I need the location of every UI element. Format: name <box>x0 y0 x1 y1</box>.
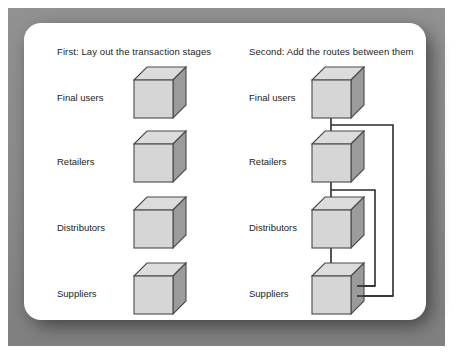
figure-card <box>24 23 426 320</box>
stage-label-suppliers-right: Suppliers <box>249 288 289 299</box>
stage-label-final-users-left: Final users <box>57 92 103 103</box>
panel-first-heading: First: Lay out the transaction stages <box>57 46 211 57</box>
figure-root: First: Lay out the transaction stages Fi… <box>0 0 461 363</box>
stage-label-distributors-right: Distributors <box>249 222 297 233</box>
stage-label-retailers-right: Retailers <box>249 156 287 167</box>
stage-label-distributors-left: Distributors <box>57 222 105 233</box>
cube-icon-distributors-right <box>311 196 365 249</box>
stage-label-suppliers-left: Suppliers <box>57 288 97 299</box>
stage-label-retailers-left: Retailers <box>57 156 95 167</box>
cube-icon-final-users-left <box>133 66 187 119</box>
stage-label-final-users-right: Final users <box>249 92 295 103</box>
cube-icon-distributors-left <box>133 196 187 249</box>
cube-icon-retailers-right <box>311 130 365 183</box>
cube-icon-suppliers-right <box>311 262 365 315</box>
panel-second-heading: Second: Add the routes between them <box>249 46 414 57</box>
cube-icon-suppliers-left <box>133 262 187 315</box>
cube-icon-retailers-left <box>133 130 187 183</box>
cube-icon-final-users-right <box>311 66 365 119</box>
